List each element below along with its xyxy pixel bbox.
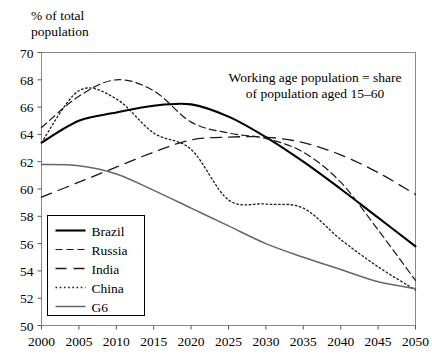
x-tick-label: 2010 xyxy=(103,334,130,349)
y-tick-label: 66 xyxy=(20,100,34,115)
x-tick-label: 2005 xyxy=(65,334,92,349)
x-tick-label: 2030 xyxy=(252,334,279,349)
y-tick-label: 58 xyxy=(20,209,34,224)
y-tick-label: 52 xyxy=(20,291,34,306)
y-tick-label: 62 xyxy=(20,155,34,170)
legend-label-g6: G6 xyxy=(92,300,109,315)
y-tick-label: 70 xyxy=(20,46,34,61)
y-tick-label: 50 xyxy=(20,319,34,334)
x-axis-ticks: 2000200520102015202020252030203520402045… xyxy=(28,326,429,349)
chart-legend: BrazilRussiaIndiaChinaG6 xyxy=(48,216,145,316)
x-tick-label: 2050 xyxy=(402,334,429,349)
annotation-line-2: of population aged 15–60 xyxy=(246,86,385,101)
x-tick-label: 2040 xyxy=(327,334,354,349)
y-tick-label: 64 xyxy=(20,127,34,142)
legend-label-brazil: Brazil xyxy=(92,224,125,239)
y-tick-label: 54 xyxy=(20,264,34,279)
legend-label-china: China xyxy=(92,281,124,296)
y-tick-label: 56 xyxy=(20,237,34,252)
x-tick-label: 2045 xyxy=(365,334,392,349)
x-tick-label: 2020 xyxy=(178,334,205,349)
chart-annotation: Working age population = share of popula… xyxy=(229,70,402,101)
legend-label-russia: Russia xyxy=(92,243,128,258)
y-tick-label: 68 xyxy=(20,73,34,88)
x-tick-label: 2015 xyxy=(140,334,167,349)
annotation-line-1: Working age population = share xyxy=(229,70,402,85)
chart-figure: % of total population 505254565860626466… xyxy=(0,0,432,362)
series-line-india xyxy=(42,137,416,198)
y-axis-ticks: 5052545658606264666870 xyxy=(20,46,42,334)
y-tick-label: 60 xyxy=(20,182,34,197)
x-tick-label: 2035 xyxy=(290,334,317,349)
legend-label-india: India xyxy=(92,262,120,277)
x-tick-label: 2000 xyxy=(28,334,55,349)
chart-canvas: 5052545658606264666870 20002005201020152… xyxy=(0,0,432,362)
x-tick-label: 2025 xyxy=(215,334,242,349)
